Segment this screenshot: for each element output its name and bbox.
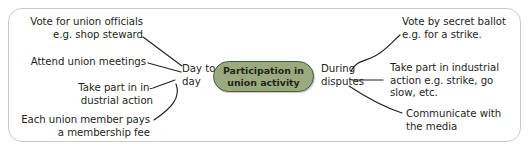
leaf-take-part-in-industrial-action: Take part in in- dustrial action — [18, 82, 153, 107]
center-node-label: Participation in union activity — [223, 65, 304, 88]
leaf-attend-union-meetings: Attend union meetings — [18, 56, 146, 69]
branch-label-during-disputes: During disputes — [321, 63, 371, 88]
leaf-vote-for-union-officials: Vote for union officials e.g. shop stewa… — [18, 16, 143, 41]
leaf-membership-fee: Each union member pays a membership fee — [18, 114, 150, 139]
center-node[interactable]: Participation in union activity — [213, 61, 314, 92]
mind-map-diagram: Vote for union officials e.g. shop stewa… — [0, 0, 530, 153]
leaf-vote-by-secret-ballot: Vote by secret ballot e.g. for a strike. — [402, 16, 522, 41]
leaf-communicate-with-the-media: Communicate with the media — [406, 108, 521, 133]
leaf-take-part-in-industrial-action-dispute: Take part in industrial action e.g. stri… — [390, 62, 515, 100]
